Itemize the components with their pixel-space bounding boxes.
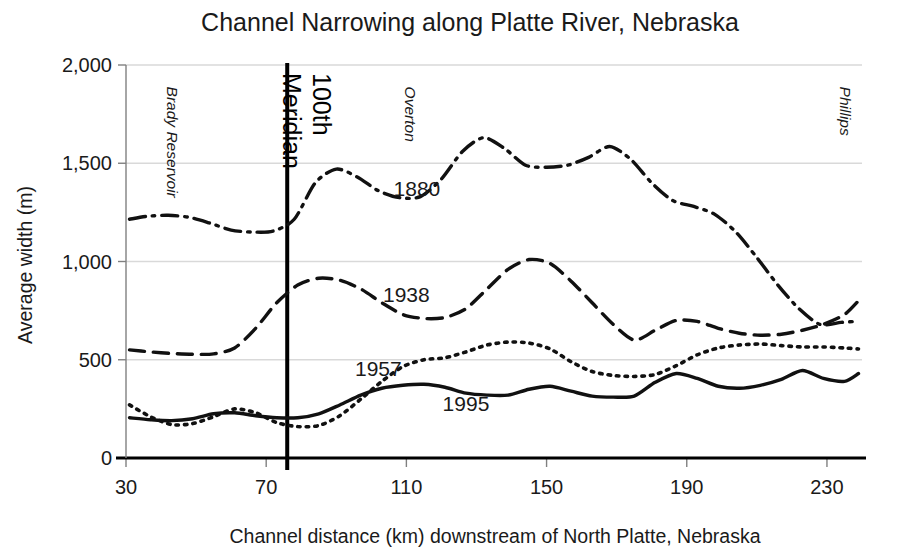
place-label-overton: Overton: [402, 87, 419, 142]
y-tick-label: 0: [101, 447, 112, 469]
x-tick-label: 190: [670, 476, 703, 498]
series-label-1957: 1957: [355, 357, 402, 380]
series-label-1995: 1995: [443, 392, 490, 415]
series-label-1880: 1880: [394, 177, 441, 200]
x-tick-label: 230: [810, 476, 843, 498]
marker-label-hundredth-meridian-primary: 100th: [308, 73, 336, 136]
x-tick-label: 150: [530, 476, 563, 498]
y-tick-label: 2,000: [62, 54, 112, 76]
y-tick-label: 1,000: [62, 251, 112, 273]
y-tick-label: 500: [79, 349, 112, 371]
place-label-phillips: Phillips: [837, 87, 854, 136]
place-label-brady-reservoir: Brady Reservoir: [164, 87, 181, 199]
chart-figure: Channel Narrowing along Platte River, Ne…: [0, 0, 900, 554]
marker-label-hundredth-meridian-secondary: Meridian: [278, 73, 306, 169]
y-tick-label: 1,500: [62, 152, 112, 174]
x-tick-label: 70: [255, 476, 277, 498]
x-tick-label: 30: [115, 476, 137, 498]
x-tick-label: 110: [390, 476, 422, 498]
chart-background: [0, 0, 900, 554]
x-axis-title: Channel distance (km) downstream of Nort…: [229, 525, 760, 547]
chart-title: Channel Narrowing along Platte River, Ne…: [201, 8, 739, 36]
y-axis-title: Average width (m): [14, 186, 36, 344]
series-label-1938: 1938: [383, 283, 430, 306]
